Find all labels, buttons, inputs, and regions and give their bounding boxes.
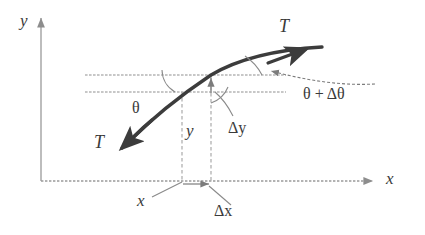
angle-arc-theta	[162, 70, 175, 92]
y-axis-label: y	[20, 12, 28, 29]
diagram-canvas	[0, 0, 425, 235]
tension-label-upper: T	[279, 17, 289, 35]
delta-x-label: Δx	[214, 203, 232, 219]
angle-arc-interior	[211, 87, 228, 103]
leader-delta-y	[215, 92, 233, 116]
leader-theta-plus-delta	[271, 71, 375, 84]
string-curve	[124, 47, 322, 146]
physics-diagram-figure: y x T T θ θ + Δθ Δy Δx y x	[0, 0, 425, 235]
x-offset-label: x	[137, 192, 145, 209]
delta-y-label: Δy	[228, 120, 246, 136]
x-axis-label: x	[386, 170, 394, 187]
y-offset-label: y	[186, 122, 194, 139]
leader-x	[152, 182, 182, 197]
angle-theta-label: θ	[132, 100, 140, 116]
tension-label-lower: T	[94, 133, 104, 151]
tension-vector-lower	[122, 120, 152, 148]
angle-theta-plus-delta-label: θ + Δθ	[303, 86, 345, 102]
